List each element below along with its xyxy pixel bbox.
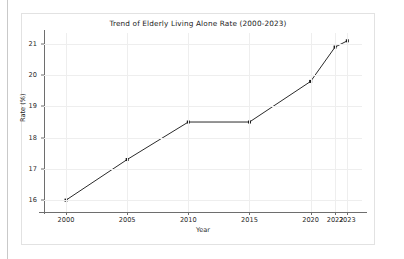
x-tick-label: 2005 <box>119 216 136 224</box>
y-tick-label: 16 <box>17 196 37 204</box>
y-tick-mark <box>41 168 44 169</box>
y-tick-label: 19 <box>17 102 37 110</box>
x-tick-label: 2023 <box>339 216 356 224</box>
gridline-horizontal <box>44 169 362 170</box>
x-tick-mark <box>66 212 67 215</box>
gridline-horizontal <box>44 44 362 45</box>
page-edge-rule <box>7 0 8 259</box>
gridline-horizontal <box>44 138 362 139</box>
gridline-horizontal <box>44 75 362 76</box>
x-tick-mark <box>347 212 348 215</box>
y-tick-mark <box>41 106 44 107</box>
gridline-vertical <box>188 33 189 212</box>
x-tick-label: 2010 <box>180 216 197 224</box>
y-tick-label: 20 <box>17 71 37 79</box>
gridline-vertical <box>127 33 128 212</box>
y-tick-mark <box>41 137 44 138</box>
gridline-vertical <box>311 33 312 212</box>
gridline-horizontal <box>44 200 362 201</box>
gridline-vertical <box>347 33 348 212</box>
x-tick-label: 2000 <box>58 216 75 224</box>
line-series <box>44 33 362 212</box>
x-tick-mark <box>249 212 250 215</box>
x-tick-label: 2020 <box>302 216 319 224</box>
gridline-vertical <box>249 33 250 212</box>
x-tick-label: 2015 <box>241 216 258 224</box>
gridline-vertical <box>66 33 67 212</box>
plot-area <box>44 33 362 212</box>
x-axis-label: Year <box>44 226 362 234</box>
gridline-horizontal <box>44 106 362 107</box>
y-tick-label: 18 <box>17 134 37 142</box>
x-tick-mark <box>188 212 189 215</box>
y-tick-mark <box>41 75 44 76</box>
chart-title: Trend of Elderly Living Alone Rate (2000… <box>21 19 375 28</box>
x-tick-mark <box>335 212 336 215</box>
gridline-vertical <box>335 33 336 212</box>
x-tick-mark <box>127 212 128 215</box>
y-tick-label: 17 <box>17 165 37 173</box>
x-axis-spine <box>39 212 367 213</box>
x-tick-mark <box>311 212 312 215</box>
series-polyline <box>66 41 347 200</box>
series-markers <box>65 39 349 201</box>
y-tick-mark <box>41 43 44 44</box>
y-tick-label: 21 <box>17 40 37 48</box>
y-tick-mark <box>41 200 44 201</box>
